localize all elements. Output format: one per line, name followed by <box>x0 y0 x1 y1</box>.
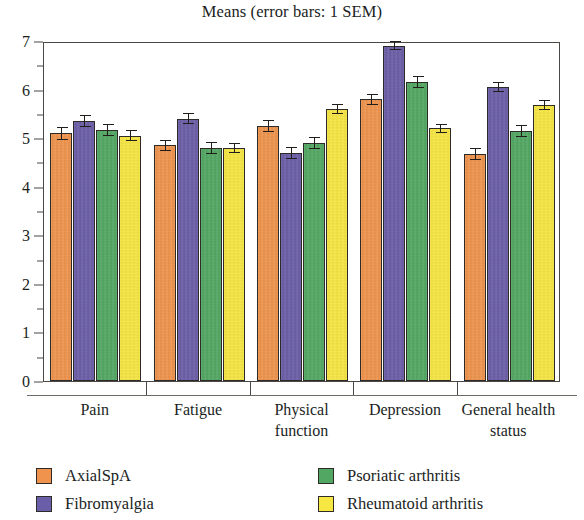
error-bar-cap <box>493 91 504 92</box>
error-bar-cap <box>126 140 137 141</box>
error-bar-cap <box>263 131 274 132</box>
bar[interactable] <box>119 136 141 381</box>
error-bar <box>188 113 189 124</box>
error-bar-cap <box>390 41 401 42</box>
bar-slot <box>533 41 555 381</box>
bar[interactable] <box>326 109 348 381</box>
error-bar <box>211 142 212 154</box>
bar[interactable] <box>177 119 199 381</box>
error-bar-cap <box>183 123 194 124</box>
bar[interactable] <box>429 128 451 381</box>
bar-slot <box>303 41 325 381</box>
error-bar <box>61 127 62 140</box>
legend-item[interactable]: Fibromyalgia <box>36 492 154 516</box>
error-bar-cap <box>436 132 447 133</box>
error-bar-cap <box>367 104 378 105</box>
error-bar-cap <box>309 148 320 149</box>
error-bar-cap <box>57 139 68 140</box>
y-axis-tick-label: 7 <box>22 34 30 50</box>
legend-item[interactable]: AxialSpA <box>36 464 131 488</box>
error-bar <box>234 143 235 154</box>
bar[interactable] <box>464 154 486 381</box>
bar-slot <box>200 41 222 381</box>
bar[interactable] <box>257 126 279 381</box>
bar-group <box>251 43 354 381</box>
legend-color-swatch <box>318 468 334 484</box>
error-bar-cap <box>103 135 114 136</box>
x-axis-category-label: Pain <box>43 399 146 420</box>
error-bar-cap <box>126 130 137 131</box>
bar[interactable] <box>487 87 509 381</box>
error-bar-cap <box>80 115 91 116</box>
bar-group <box>458 43 561 381</box>
error-bar-cap <box>206 142 217 143</box>
error-bar-cap <box>367 94 378 95</box>
error-bar <box>521 125 522 138</box>
error-bar-cap <box>539 109 550 110</box>
y-axis-tick-label: 5 <box>22 131 30 147</box>
bar-slot <box>73 41 95 381</box>
bar-slot <box>464 41 486 381</box>
error-bar-cap <box>160 140 171 141</box>
error-bar <box>394 41 395 50</box>
error-bar-cap <box>436 124 447 125</box>
plot-area <box>43 42 560 382</box>
error-bar-cap <box>493 82 504 83</box>
x-axis-separator <box>250 382 251 395</box>
x-axis-labels: PainFatiguePhysical functionDepressionGe… <box>43 399 560 447</box>
legend-item[interactable]: Rheumatoid arthritis <box>318 492 483 516</box>
y-axis-major-tick <box>34 236 43 237</box>
error-bar-cap <box>516 136 527 137</box>
legend-item[interactable]: Psoriatic arthritis <box>318 464 460 488</box>
x-axis-category-label: General health status <box>457 399 560 441</box>
bar-slot <box>326 41 348 381</box>
bar[interactable] <box>383 46 405 381</box>
error-bar-cap <box>286 147 297 148</box>
error-bar-cap <box>263 120 274 121</box>
chart-title: Means (error bars: 1 SEM) <box>0 2 584 22</box>
error-bar-cap <box>286 158 297 159</box>
bar-slot <box>223 41 245 381</box>
bar[interactable] <box>280 153 302 381</box>
bar-slot <box>257 41 279 381</box>
x-axis-category-label: Depression <box>353 399 456 420</box>
y-axis-tick-label: 2 <box>22 277 30 293</box>
error-bar-cap <box>160 150 171 151</box>
x-axis-baseline <box>27 395 577 396</box>
bar[interactable] <box>96 130 118 381</box>
bar[interactable] <box>154 145 176 381</box>
bar[interactable] <box>303 143 325 381</box>
error-bar-cap <box>390 49 401 50</box>
legend-label: Fibromyalgia <box>65 494 154 514</box>
y-axis-tick-label: 6 <box>22 83 30 99</box>
bar-slot <box>154 41 176 381</box>
bar[interactable] <box>533 105 555 381</box>
bar[interactable] <box>200 148 222 381</box>
error-bar-cap <box>229 143 240 144</box>
bar[interactable] <box>360 99 382 381</box>
bars-layer <box>44 43 559 381</box>
bar[interactable] <box>406 82 428 381</box>
bar-slot <box>487 41 509 381</box>
bar-slot <box>383 41 405 381</box>
y-axis: 01234567 <box>0 42 43 382</box>
error-bar <box>475 148 476 160</box>
bar-slot <box>429 41 451 381</box>
error-bar-cap <box>309 137 320 138</box>
error-bar <box>417 76 418 88</box>
error-bar-cap <box>80 126 91 127</box>
bar[interactable] <box>510 131 532 381</box>
bar[interactable] <box>50 133 72 381</box>
legend-color-swatch <box>36 468 52 484</box>
error-bar-cap <box>470 148 481 149</box>
error-bar <box>314 137 315 150</box>
bar[interactable] <box>223 148 245 381</box>
error-bar <box>130 130 131 141</box>
x-axis-separator <box>457 382 458 395</box>
error-bar <box>440 124 441 134</box>
bar[interactable] <box>73 121 95 381</box>
bar-slot <box>280 41 302 381</box>
legend-label: Rheumatoid arthritis <box>347 494 483 514</box>
y-axis-tick-label: 4 <box>22 180 30 196</box>
legend-color-swatch <box>36 496 52 512</box>
